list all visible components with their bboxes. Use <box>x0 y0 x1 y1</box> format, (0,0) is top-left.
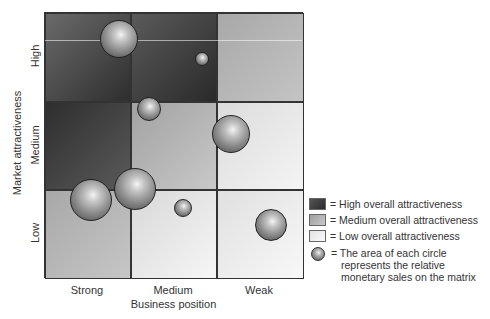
bubble <box>212 115 250 153</box>
x-tick-weak: Weak <box>216 284 302 296</box>
highlight-line <box>45 40 302 41</box>
legend-item-medium: = Medium overall attractiveness <box>309 214 478 229</box>
cell-high-weak <box>217 13 304 102</box>
legend-label: represents the relative <box>331 259 476 271</box>
legend-circle-text: = The area of each circle represents the… <box>331 247 476 283</box>
legend-label: monetary sales on the matrix <box>331 271 476 283</box>
legend-label: = Low overall attractiveness <box>330 230 460 242</box>
y-axis-title: Market attractiveness <box>11 63 23 223</box>
legend-item-high: = High overall attractiveness <box>309 198 478 213</box>
y-tick-low: Low <box>29 189 41 277</box>
bubble <box>70 179 112 221</box>
y-tick-medium: Medium <box>29 101 41 189</box>
legend-label: = Medium overall attractiveness <box>330 214 478 226</box>
bubble <box>100 20 138 58</box>
attractiveness-matrix <box>44 12 303 278</box>
legend-label: = High overall attractiveness <box>330 198 462 210</box>
bubble <box>137 97 161 121</box>
bubble <box>195 52 209 66</box>
legend-label: = The area of each circle <box>331 247 476 259</box>
x-tick-medium: Medium <box>130 284 216 296</box>
bubble <box>114 168 156 210</box>
medium-swatch-icon <box>309 214 326 226</box>
legend-item-low: = Low overall attractiveness <box>309 230 478 245</box>
high-swatch-icon <box>309 198 326 210</box>
circle-icon <box>311 247 325 261</box>
bubble <box>255 209 287 241</box>
y-tick-high: High <box>29 12 41 100</box>
low-swatch-icon <box>309 230 326 242</box>
legend-item-circle: = The area of each circle represents the… <box>309 247 478 283</box>
x-axis-title: Business position <box>44 298 303 310</box>
legend: = High overall attractiveness = Medium o… <box>309 198 478 284</box>
bubble <box>174 199 192 217</box>
x-tick-strong: Strong <box>44 284 130 296</box>
